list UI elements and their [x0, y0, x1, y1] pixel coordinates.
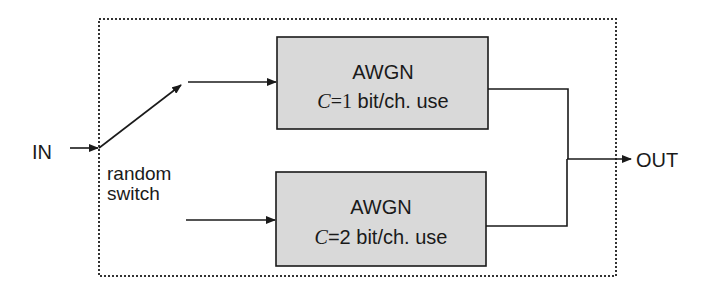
awgn-block-2-capacity: C=2 bit/ch. use — [315, 226, 448, 248]
channel-diagram: IN random switch AWGN C=1 bit/ch. use AW… — [0, 0, 720, 300]
switch-label-line1: random — [107, 163, 171, 184]
awgn-block-2-title: AWGN — [350, 196, 411, 218]
input-label: IN — [32, 141, 52, 163]
awgn-block-1-capacity: C=1 bit/ch. use — [317, 90, 448, 112]
awgn-block-2: AWGN C=2 bit/ch. use — [276, 172, 486, 266]
output-label: OUT — [636, 149, 678, 171]
switch-arm — [99, 85, 181, 148]
bottom-channel-output-line — [486, 159, 567, 226]
awgn-block-1-title: AWGN — [352, 61, 413, 83]
awgn-block-1: AWGN C=1 bit/ch. use — [277, 37, 488, 129]
top-channel-output-line — [488, 89, 568, 159]
switch-label-line2: switch — [107, 183, 160, 204]
